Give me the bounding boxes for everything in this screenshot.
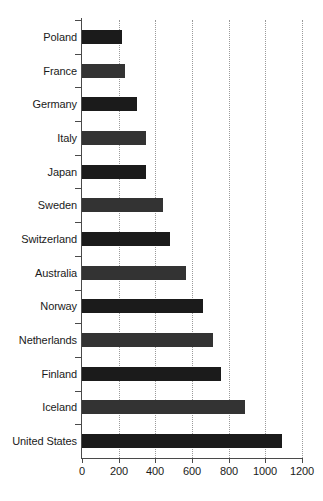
y-tick-11 [75, 391, 82, 392]
y-label-finland: Finland [42, 369, 77, 380]
y-label-sweden: Sweden [38, 200, 77, 211]
bar-sweden [82, 198, 163, 212]
y-label-norway: Norway [40, 301, 77, 312]
bar-united-states [82, 434, 282, 448]
x-tick-0 [82, 458, 83, 463]
bar-iceland [82, 400, 245, 414]
y-tick-3 [75, 121, 82, 122]
bar-netherlands [82, 333, 213, 347]
x-label-400: 400 [146, 466, 164, 477]
x-tick-200 [119, 458, 120, 463]
x-label-600: 600 [183, 466, 201, 477]
y-tick-0 [75, 20, 82, 21]
bar-italy [82, 131, 146, 145]
x-label-1200: 1200 [290, 466, 314, 477]
y-label-australia: Australia [35, 268, 77, 279]
bar-japan [82, 165, 146, 179]
bar-norway [82, 299, 203, 313]
bar-switzerland [82, 232, 170, 246]
x-label-800: 800 [220, 466, 238, 477]
y-label-netherlands: Netherlands [19, 335, 77, 346]
bar-australia [82, 266, 186, 280]
bar-france [82, 64, 125, 78]
y-tick-5 [75, 188, 82, 189]
y-tick-6 [75, 222, 82, 223]
y-label-france: France [43, 66, 77, 77]
y-label-switzerland: Switzerland [21, 234, 77, 245]
bar-finland [82, 367, 221, 381]
y-tick-12 [75, 424, 82, 425]
bar-germany [82, 97, 137, 111]
y-label-poland: Poland [43, 32, 77, 43]
x-tick-1200 [302, 458, 303, 463]
y-tick-9 [75, 323, 82, 324]
y-tick-8 [75, 290, 82, 291]
bar-chart: PolandFranceGermanyItalyJapanSwedenSwitz… [0, 0, 323, 501]
x-tick-400 [155, 458, 156, 463]
y-tick-10 [75, 357, 82, 358]
y-label-germany: Germany [32, 99, 77, 110]
y-label-italy: Italy [57, 133, 77, 144]
x-tick-800 [229, 458, 230, 463]
bar-poland [82, 30, 122, 44]
x-tick-600 [192, 458, 193, 463]
y-tick-4 [75, 155, 82, 156]
x-label-0: 0 [79, 466, 85, 477]
y-label-japan: Japan [48, 167, 77, 178]
plot-area [82, 20, 302, 458]
gridline-1200 [302, 20, 303, 458]
y-tick-7 [75, 256, 82, 257]
y-tick-1 [75, 54, 82, 55]
y-label-iceland: Iceland [42, 402, 77, 413]
y-label-united-states: United States [12, 436, 77, 447]
x-tick-1000 [265, 458, 266, 463]
x-label-1000: 1000 [253, 466, 277, 477]
y-tick-2 [75, 87, 82, 88]
x-label-200: 200 [110, 466, 128, 477]
